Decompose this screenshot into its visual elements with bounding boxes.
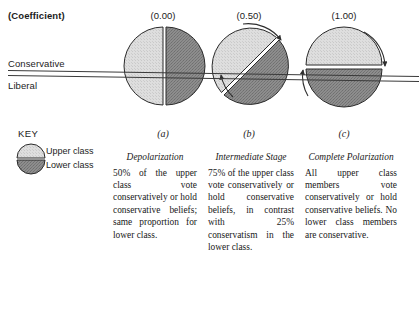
pie-c-upper-half: [306, 27, 382, 65]
axis-label-conservative: Conservative: [8, 58, 65, 69]
panel-letter-a: (a): [133, 128, 193, 139]
caption-b-body: 75% of the upper class vote conservative…: [208, 167, 294, 254]
key-label-upper-class: Upper class: [46, 146, 94, 156]
key-upper-half-icon: [17, 144, 45, 158]
caption-b: Intermediate Stage 75% of the upper clas…: [208, 152, 294, 253]
polarization-figure: (Coefficient) Conservative Liberal (0.00…: [0, 0, 419, 311]
caption-a: Depolarization 50% of the upper class vo…: [113, 152, 197, 241]
pie-c: [303, 27, 385, 107]
coefficient-value-c: (1.00): [314, 10, 374, 21]
caption-a-body: 50% of the upper class vote conservative…: [113, 167, 197, 241]
key-label-lower-class: Lower class: [46, 160, 94, 170]
caption-c-body: All upper class members vote conservativ…: [305, 167, 397, 241]
panel-letter-c: (c): [314, 128, 374, 139]
pie-a: [124, 27, 205, 105]
coefficient-value-a: (0.00): [133, 10, 193, 21]
caption-a-title: Depolarization: [113, 152, 197, 164]
key-title: KEY: [18, 128, 38, 139]
pie-a-lower-half: [166, 27, 205, 105]
pie-b: [212, 24, 288, 105]
coefficient-label: (Coefficient): [8, 10, 65, 21]
panel-letter-b: (b): [219, 128, 279, 139]
caption-b-title: Intermediate Stage: [208, 152, 294, 164]
key-lower-half-icon: [17, 160, 45, 174]
caption-c: Complete Polarization All upper class me…: [305, 152, 397, 241]
coefficient-value-b: (0.50): [219, 10, 279, 21]
pie-a-upper-half: [124, 27, 163, 105]
caption-c-title: Complete Polarization: [305, 152, 397, 164]
axis-label-liberal: Liberal: [8, 80, 37, 91]
key-swatch-graphic: [17, 144, 45, 174]
